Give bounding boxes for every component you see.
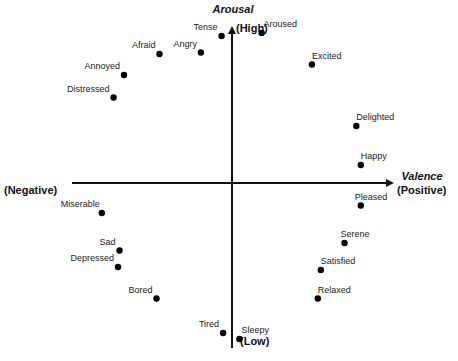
emotion-point-excited	[309, 61, 315, 67]
emotion-label-angry: Angry	[173, 39, 197, 49]
emotion-point-delighted	[353, 123, 359, 129]
emotion-label-afraid: Afraid	[132, 40, 156, 50]
emotion-point-afraid	[156, 51, 162, 57]
valence-axis-title: Valence	[401, 170, 442, 182]
emotion-point-angry	[198, 49, 204, 55]
emotion-label-bored: Bored	[128, 285, 152, 295]
emotion-label-depressed: Depressed	[70, 253, 114, 263]
emotion-label-excited: Excited	[312, 51, 342, 61]
emotion-point-pleased	[358, 202, 364, 208]
emotion-label-miserable: Miserable	[61, 199, 100, 209]
emotion-label-sad: Sad	[99, 237, 115, 247]
emotion-points: TenseArousedAngryAfraidAnnoyedDistressed…	[61, 19, 395, 342]
arousal-low-label: (Low)	[240, 335, 270, 347]
emotion-label-happy: Happy	[361, 151, 388, 161]
emotion-label-delighted: Delighted	[356, 112, 394, 122]
emotion-point-sleepy	[236, 336, 242, 342]
emotion-label-serene: Serene	[341, 229, 370, 239]
emotion-point-distressed	[110, 94, 116, 100]
emotion-label-pleased: Pleased	[355, 192, 388, 202]
arousal-axis-title: Arousal	[212, 3, 255, 15]
emotion-point-satisfied	[318, 267, 324, 273]
emotion-point-bored	[153, 295, 159, 301]
emotion-point-miserable	[99, 210, 105, 216]
emotion-label-aroused: Aroused	[264, 19, 298, 29]
emotion-point-sad	[116, 247, 122, 253]
circumplex-diagram: Arousal (High) (Low) Valence (Positive) …	[0, 0, 458, 361]
emotion-point-aroused	[258, 30, 264, 36]
emotion-label-tired: Tired	[199, 319, 219, 329]
emotion-point-happy	[358, 162, 364, 168]
emotion-label-relaxed: Relaxed	[318, 285, 351, 295]
valence-positive-label: (Positive)	[397, 184, 447, 196]
emotion-point-depressed	[115, 264, 121, 270]
emotion-label-tense: Tense	[194, 22, 218, 32]
emotion-point-tense	[218, 33, 224, 39]
emotion-point-relaxed	[315, 295, 321, 301]
emotion-point-serene	[341, 240, 347, 246]
emotion-point-annoyed	[121, 72, 127, 78]
emotion-label-distressed: Distressed	[67, 84, 110, 94]
valence-negative-label: (Negative)	[4, 184, 58, 196]
emotion-label-satisfied: Satisfied	[321, 256, 356, 266]
emotion-label-sleepy: Sleepy	[241, 325, 269, 335]
emotion-point-tired	[220, 330, 226, 336]
emotion-label-annoyed: Annoyed	[84, 61, 120, 71]
